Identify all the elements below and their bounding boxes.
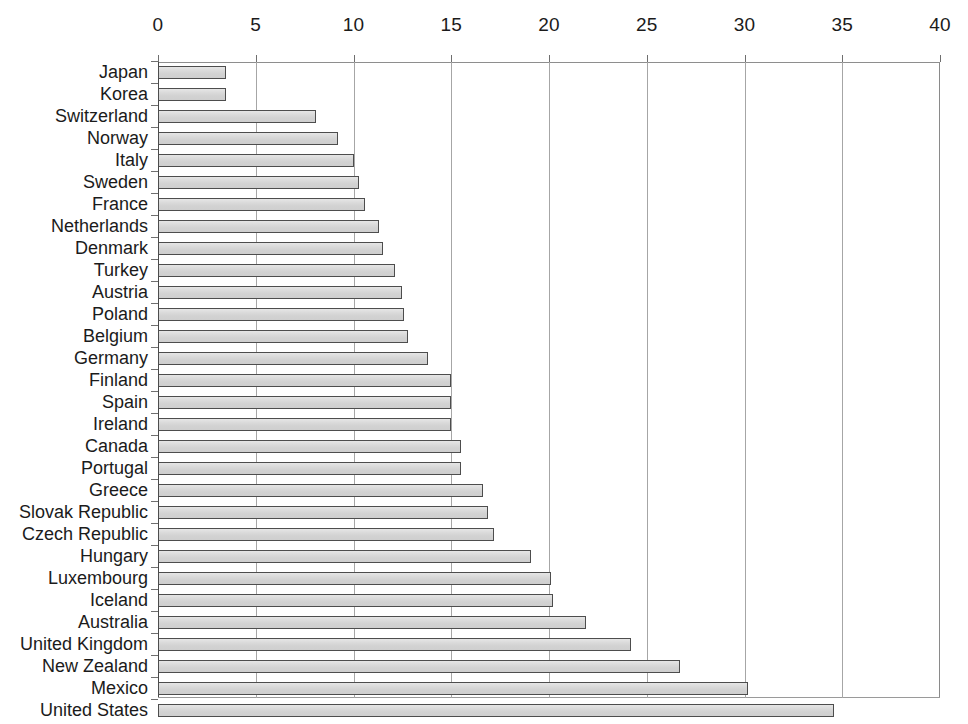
x-tick-mark bbox=[940, 55, 941, 62]
y-tick-mark bbox=[151, 523, 158, 524]
y-tick-mark bbox=[151, 545, 158, 546]
category-label: Korea bbox=[100, 84, 148, 104]
y-tick-mark bbox=[151, 193, 158, 194]
y-tick-mark bbox=[151, 633, 158, 634]
y-tick-mark bbox=[151, 105, 158, 106]
y-tick-mark bbox=[151, 303, 158, 304]
y-tick-mark bbox=[151, 259, 158, 260]
category-label: Australia bbox=[78, 612, 148, 632]
category-label: Slovak Republic bbox=[19, 502, 148, 522]
y-tick-mark bbox=[151, 435, 158, 436]
bar bbox=[158, 242, 383, 255]
category-label: New Zealand bbox=[42, 656, 148, 676]
bar bbox=[158, 572, 551, 585]
bar bbox=[158, 396, 451, 409]
y-tick-mark bbox=[151, 237, 158, 238]
y-tick-mark bbox=[151, 655, 158, 656]
y-tick-mark bbox=[151, 677, 158, 678]
x-tick-label: 40 bbox=[929, 14, 951, 36]
category-label: Denmark bbox=[75, 238, 148, 258]
category-label: United States bbox=[40, 700, 148, 720]
category-label: France bbox=[92, 194, 148, 214]
bar bbox=[158, 88, 226, 101]
y-tick-mark bbox=[151, 61, 158, 62]
y-tick-mark bbox=[151, 149, 158, 150]
y-tick-mark bbox=[151, 171, 158, 172]
category-label: Turkey bbox=[94, 260, 148, 280]
x-tick-mark bbox=[256, 55, 257, 62]
gridline bbox=[745, 62, 746, 698]
y-tick-mark bbox=[151, 347, 158, 348]
x-tick-mark bbox=[647, 55, 648, 62]
x-tick-label: 0 bbox=[153, 14, 164, 36]
category-label: Czech Republic bbox=[22, 524, 148, 544]
y-tick-mark bbox=[151, 589, 158, 590]
category-label: Spain bbox=[102, 392, 148, 412]
x-tick-label: 30 bbox=[734, 14, 756, 36]
x-tick-mark bbox=[842, 55, 843, 62]
bar bbox=[158, 704, 834, 717]
y-tick-mark bbox=[151, 281, 158, 282]
y-tick-mark bbox=[151, 83, 158, 84]
y-tick-mark bbox=[151, 413, 158, 414]
y-tick-mark bbox=[151, 699, 158, 700]
y-tick-mark bbox=[151, 611, 158, 612]
category-label: Norway bbox=[87, 128, 148, 148]
bar bbox=[158, 308, 404, 321]
bar bbox=[158, 462, 461, 475]
x-tick-label: 15 bbox=[440, 14, 462, 36]
bar bbox=[158, 440, 461, 453]
category-label: Switzerland bbox=[55, 106, 148, 126]
category-label: Poland bbox=[92, 304, 148, 324]
bar bbox=[158, 594, 553, 607]
category-label: Greece bbox=[89, 480, 148, 500]
category-label: Canada bbox=[85, 436, 148, 456]
category-label: Germany bbox=[74, 348, 148, 368]
bar bbox=[158, 616, 586, 629]
y-tick-mark bbox=[151, 325, 158, 326]
bar bbox=[158, 550, 531, 563]
axis-right-line bbox=[939, 62, 940, 698]
bar bbox=[158, 264, 395, 277]
x-axis-tick-labels: 0510152025303540 bbox=[0, 0, 968, 48]
gridline bbox=[842, 62, 843, 698]
category-label: Ireland bbox=[93, 414, 148, 434]
x-tick-mark bbox=[354, 55, 355, 62]
x-tick-mark bbox=[745, 55, 746, 62]
bar-chart: 0510152025303540 JapanKoreaSwitzerlandNo… bbox=[0, 0, 968, 724]
bar bbox=[158, 374, 451, 387]
bar bbox=[158, 352, 428, 365]
bar bbox=[158, 220, 379, 233]
bar bbox=[158, 198, 365, 211]
bar bbox=[158, 418, 451, 431]
category-label: Belgium bbox=[83, 326, 148, 346]
category-label: Japan bbox=[99, 62, 148, 82]
x-tick-label: 10 bbox=[343, 14, 365, 36]
category-label: Luxembourg bbox=[48, 568, 148, 588]
category-label: Mexico bbox=[91, 678, 148, 698]
bar bbox=[158, 484, 483, 497]
y-tick-mark bbox=[151, 457, 158, 458]
category-label: Italy bbox=[115, 150, 148, 170]
y-tick-mark bbox=[151, 215, 158, 216]
bar bbox=[158, 66, 226, 79]
bar bbox=[158, 286, 402, 299]
bar bbox=[158, 638, 631, 651]
x-tick-mark bbox=[158, 55, 159, 62]
category-label: Netherlands bbox=[51, 216, 148, 236]
x-tick-label: 20 bbox=[538, 14, 560, 36]
x-tick-label: 25 bbox=[636, 14, 658, 36]
bar bbox=[158, 682, 748, 695]
x-tick-mark bbox=[451, 55, 452, 62]
bar bbox=[158, 176, 359, 189]
category-label: United Kingdom bbox=[20, 634, 148, 654]
y-tick-mark bbox=[151, 391, 158, 392]
bar bbox=[158, 506, 488, 519]
bar bbox=[158, 110, 316, 123]
x-tick-label: 5 bbox=[250, 14, 261, 36]
y-tick-mark bbox=[151, 127, 158, 128]
x-tick-mark bbox=[549, 55, 550, 62]
y-axis-category-labels: JapanKoreaSwitzerlandNorwayItalySwedenFr… bbox=[0, 62, 152, 698]
bar bbox=[158, 528, 494, 541]
category-label: Portugal bbox=[81, 458, 148, 478]
